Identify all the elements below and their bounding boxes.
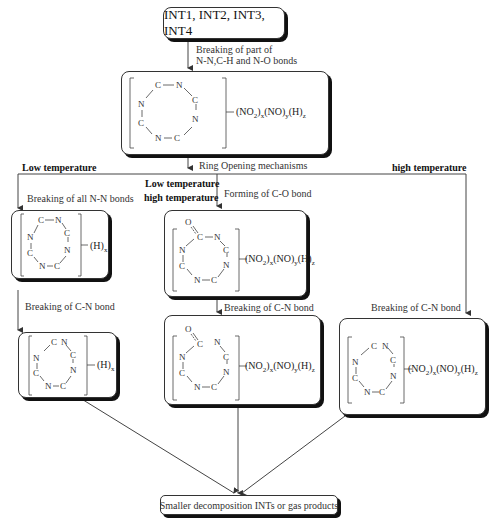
middle-node-1-substituent: (NO2)x(NO)y(H)z — [245, 253, 315, 267]
svg-text:N: N — [155, 133, 162, 143]
octazocane-ring-icon: C N C N C N C N — [126, 72, 246, 154]
svg-text:C: C — [390, 355, 396, 365]
left-node-2: C N C N C N C N (H)x — [18, 332, 117, 398]
svg-text:N: N — [61, 337, 68, 347]
svg-text:N: N — [194, 382, 201, 392]
svg-text:N: N — [176, 80, 183, 90]
final-node: Smaller decomposition INTs or gas produc… — [160, 495, 338, 515]
left-node-1-substituent: (H)x — [90, 240, 107, 254]
middle-step1-label: Forming of C-O bond — [224, 188, 312, 199]
left-step2-label: Breaking of C-N bond — [25, 301, 115, 312]
left-node-2-substituent: (H)x — [97, 359, 114, 373]
middle-condition-line2: high temperature — [144, 192, 219, 203]
svg-text:N: N — [39, 261, 46, 271]
right-node-1-substituent: (NO2)x(NO)y(H)z — [408, 363, 478, 377]
svg-text:C: C — [211, 275, 217, 285]
svg-text:C: C — [379, 387, 385, 397]
svg-text:N: N — [382, 341, 389, 351]
svg-text:N: N — [194, 275, 201, 285]
svg-text:N: N — [214, 337, 221, 347]
top-node: INT1, INT2, INT3, INT4 — [163, 7, 285, 39]
left-condition: Low temperature — [22, 162, 97, 173]
svg-text:N: N — [33, 353, 40, 363]
svg-text:C: C — [60, 381, 66, 391]
svg-text:C: C — [179, 368, 185, 378]
svg-text:C: C — [371, 341, 377, 351]
final-node-label: Smaller decomposition INTs or gas produc… — [160, 500, 338, 511]
step1-label-line2: N-N,C-H and N-O bonds — [196, 55, 297, 66]
left-step1-label: Breaking of all N-N bonds — [27, 193, 134, 204]
ring-opening-label: Ring Opening mechanisms — [199, 160, 307, 171]
svg-text:C: C — [223, 245, 229, 255]
svg-text:N: N — [214, 232, 221, 242]
svg-text:N: N — [364, 387, 371, 397]
arrow-left-to-final — [80, 398, 234, 493]
svg-text:C: C — [197, 232, 203, 242]
svg-text:O: O — [185, 217, 192, 227]
top-node-label: INT1, INT2, INT3, INT4 — [164, 7, 284, 39]
svg-text:C: C — [33, 368, 39, 378]
left-node-1: C N C N C N C N (H)x — [11, 210, 109, 279]
svg-text:C: C — [192, 95, 198, 105]
svg-text:C: C — [155, 80, 161, 90]
svg-text:C: C — [64, 228, 70, 238]
svg-text:C: C — [174, 133, 180, 143]
middle-step2-label: Breaking of C-N bond — [224, 302, 314, 313]
svg-text:N: N — [138, 99, 145, 109]
ring-open-h-icon: C N C N C N C N — [25, 333, 99, 397]
svg-text:N: N — [390, 371, 397, 381]
right-node-1: C N C N C N C N (NO2)x(NO)y(H)z — [339, 318, 486, 415]
middle-condition-line1: Low temperature — [145, 178, 220, 189]
ring-no-nn-icon: C N C N C N C N — [18, 211, 88, 278]
right-step1-label: Breaking of C-N bond — [371, 302, 461, 313]
ring-substituent: (NO2)x(NO)y(H)z — [236, 106, 306, 120]
ring-node: C N C N C N C N (NO2)x(NO)y(H)z — [121, 71, 329, 155]
svg-text:N: N — [27, 232, 34, 242]
svg-text:N: N — [223, 367, 230, 377]
svg-text:O: O — [185, 324, 192, 334]
middle-node-2: O C N C N C N C N (NO2)x(NO)y(H)z — [164, 315, 321, 405]
svg-text:C: C — [27, 248, 33, 258]
svg-text:C: C — [38, 215, 44, 225]
ring-co-icon: O C N C N C N C N — [169, 211, 249, 296]
svg-text:N: N — [192, 114, 199, 124]
svg-text:N: N — [179, 352, 186, 362]
svg-text:N: N — [352, 357, 359, 367]
svg-text:C: C — [70, 350, 76, 360]
arrow-right-to-final — [242, 416, 345, 493]
ring-open-co-icon: O C N C N C N C N — [169, 316, 251, 404]
svg-text:N: N — [64, 245, 71, 255]
svg-text:C: C — [51, 337, 57, 347]
svg-text:C: C — [54, 261, 60, 271]
svg-text:C: C — [179, 261, 185, 271]
step1-label-line1: Breaking of part of — [196, 44, 272, 55]
svg-text:N: N — [223, 260, 230, 270]
svg-text:N: N — [179, 245, 186, 255]
middle-node-1: O C N C N C N C N (NO2)x(NO)y(H)z — [164, 210, 307, 297]
right-condition: high temperature — [392, 162, 467, 173]
svg-text:N: N — [70, 365, 77, 375]
svg-text:C: C — [197, 339, 203, 349]
svg-text:C: C — [138, 118, 144, 128]
svg-text:C: C — [352, 373, 358, 383]
svg-text:N: N — [45, 381, 52, 391]
svg-text:N: N — [55, 215, 62, 225]
middle-node-2-substituent: (NO2)x(NO)y(H)z — [245, 360, 315, 374]
svg-text:C: C — [211, 382, 217, 392]
svg-text:C: C — [223, 352, 229, 362]
